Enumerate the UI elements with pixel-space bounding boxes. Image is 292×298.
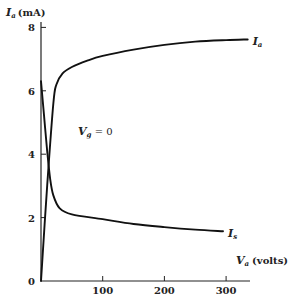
x-axis: 100200300 Va(volts) bbox=[41, 254, 288, 296]
series-label-ia: Ia bbox=[252, 35, 263, 49]
y-axis-label: Ia(mA) bbox=[5, 6, 46, 20]
x-tick-label: 300 bbox=[216, 285, 237, 296]
annotation-vg: Vg = 0 bbox=[78, 125, 113, 139]
series-label-is: Is bbox=[227, 227, 237, 241]
y-tick-label: 6 bbox=[28, 86, 35, 97]
y-tick-label: 4 bbox=[28, 149, 35, 160]
y-tick-label: 2 bbox=[28, 213, 35, 224]
y-tick-label: 8 bbox=[28, 22, 35, 33]
y-tick-label: 0 bbox=[28, 276, 35, 287]
x-axis-label: Va(volts) bbox=[236, 254, 288, 268]
series-line-ia bbox=[41, 39, 248, 281]
x-tick-label: 200 bbox=[154, 285, 175, 296]
x-tick-label: 100 bbox=[92, 285, 113, 296]
y-axis: 02468 Ia(mA) bbox=[5, 6, 46, 287]
chart: 02468 Ia(mA) 100200300 Va(volts) Vg = 0 … bbox=[0, 0, 292, 298]
series-line-is bbox=[41, 81, 223, 231]
